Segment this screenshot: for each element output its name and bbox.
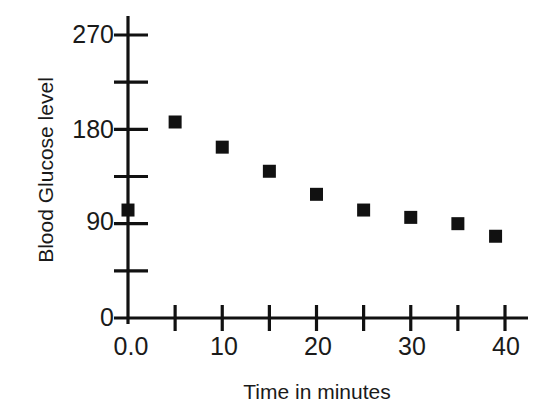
chart-container: Blood Glucose level 270 180 90 0 0.0 10 … bbox=[0, 0, 534, 414]
x-axis-title: Time in minutes bbox=[128, 380, 506, 404]
y-axis-ticks bbox=[114, 35, 148, 271]
axis-lines bbox=[114, 16, 528, 324]
plot-area bbox=[0, 0, 534, 414]
data-point-markers bbox=[122, 115, 503, 242]
